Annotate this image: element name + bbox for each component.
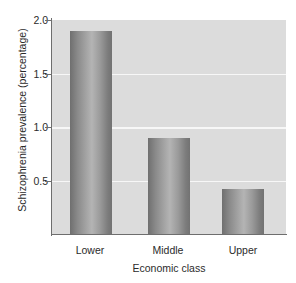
plot-area [52,20,286,234]
bar-lower[interactable] [70,31,112,234]
y-tick-label-0-5: 0.5 [14,175,48,187]
x-tick-label-upper: Upper [193,243,293,257]
x-axis-label: Economic class [52,262,286,274]
y-tick-label-2-0: 2.0 [14,14,48,26]
bar-middle[interactable] [148,138,190,234]
y-axis-tick-labels: 2.0 1.5 1.0 0.5 [12,0,48,283]
bar-chart-figure: Schizophrenia prevalence (percentage) 2.… [0,0,296,283]
x-axis-spine [51,234,287,235]
bar-upper[interactable] [222,189,264,234]
y-tick-label-1-5: 1.5 [14,68,48,80]
y-axis-spine [51,18,52,236]
y-tick-label-1-0: 1.0 [14,121,48,133]
